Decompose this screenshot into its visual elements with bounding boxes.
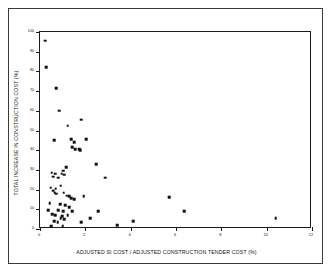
y-axis-tick xyxy=(36,111,40,112)
y-axis-tick xyxy=(36,91,40,92)
y-axis-tick xyxy=(36,190,40,191)
data-point xyxy=(66,214,69,217)
data-point xyxy=(73,141,76,144)
data-point xyxy=(60,217,63,220)
data-point xyxy=(63,174,66,177)
data-point xyxy=(58,110,61,113)
data-point xyxy=(68,206,71,209)
data-point xyxy=(79,149,82,152)
plot-area xyxy=(40,32,310,227)
data-point xyxy=(168,196,171,199)
x-axis-tick xyxy=(131,227,132,231)
data-point xyxy=(116,224,119,227)
chart-figure: 0102030405060708090100 024681012 ADJUSTE… xyxy=(0,0,333,274)
y-axis-tick xyxy=(36,150,40,151)
data-point xyxy=(53,139,56,142)
y-axis-tick xyxy=(36,170,40,171)
data-point xyxy=(44,40,47,43)
y-axis-tick xyxy=(36,71,40,72)
x-axis-tick xyxy=(40,227,41,231)
data-point xyxy=(48,202,51,205)
y-axis-tick xyxy=(36,209,40,210)
x-axis-tick xyxy=(312,227,313,231)
data-point xyxy=(54,214,57,217)
data-point xyxy=(65,166,68,169)
data-point xyxy=(95,163,98,166)
y-axis-title: TOTAL INCREASE IN CONSTRUCTION COST (%) xyxy=(13,38,19,228)
data-point xyxy=(55,87,58,90)
y-axis-tick xyxy=(36,52,40,53)
data-point xyxy=(61,225,64,228)
data-point xyxy=(80,221,83,224)
x-axis-tick xyxy=(221,227,222,231)
data-point xyxy=(57,176,60,179)
data-point xyxy=(97,210,100,213)
data-point xyxy=(52,175,55,178)
data-point xyxy=(64,204,67,207)
plot-frame xyxy=(39,31,311,228)
data-point xyxy=(80,118,83,121)
data-point xyxy=(47,209,50,212)
data-point xyxy=(85,138,88,141)
data-point xyxy=(57,209,60,212)
data-point xyxy=(45,66,48,69)
data-point xyxy=(50,225,53,228)
data-point xyxy=(132,220,135,223)
data-point xyxy=(59,203,62,206)
data-point xyxy=(82,195,85,198)
x-axis-title: ADJUSTED SI COST / ADJUSTED CONSTRUCTION… xyxy=(0,249,333,255)
data-point xyxy=(63,218,66,221)
y-axis-tick xyxy=(36,131,40,132)
data-point xyxy=(73,198,76,201)
data-point xyxy=(66,124,69,127)
data-point xyxy=(74,148,77,151)
data-point xyxy=(274,217,277,220)
data-point xyxy=(53,220,56,223)
data-point xyxy=(71,210,74,213)
x-axis-tick xyxy=(176,227,177,231)
data-point xyxy=(62,210,65,213)
data-point xyxy=(56,221,59,224)
data-point xyxy=(89,217,92,220)
x-axis-tick xyxy=(267,227,268,231)
y-axis-tick xyxy=(36,32,40,33)
data-point xyxy=(55,192,58,195)
data-point xyxy=(104,176,107,179)
data-point xyxy=(183,210,186,213)
data-point xyxy=(60,184,63,187)
data-point xyxy=(55,187,58,190)
x-axis-tick xyxy=(85,227,86,231)
